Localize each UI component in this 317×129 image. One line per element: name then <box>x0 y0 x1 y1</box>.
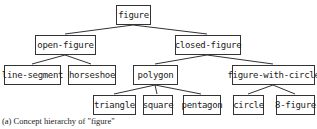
node-open-figure: open-figure <box>35 35 96 55</box>
node-horseshoe: horseshoe <box>68 65 116 85</box>
node-polygon: polygon <box>133 65 178 85</box>
node-line-segment: line-segment <box>4 65 61 85</box>
node-triangle: triangle <box>93 95 136 115</box>
node-square: square <box>143 95 173 115</box>
node-circle: circle <box>233 95 264 115</box>
node-figure-with-circle: figure-with-circle <box>232 65 315 85</box>
figure-caption: (a) Concept hierarchy of "figure" <box>2 116 115 126</box>
node-closed-figure: closed-figure <box>175 35 241 55</box>
node-pentagon: pentagon <box>183 95 221 115</box>
node-figure: figure <box>116 5 151 25</box>
node-8-figure: 8-figure <box>276 95 315 115</box>
